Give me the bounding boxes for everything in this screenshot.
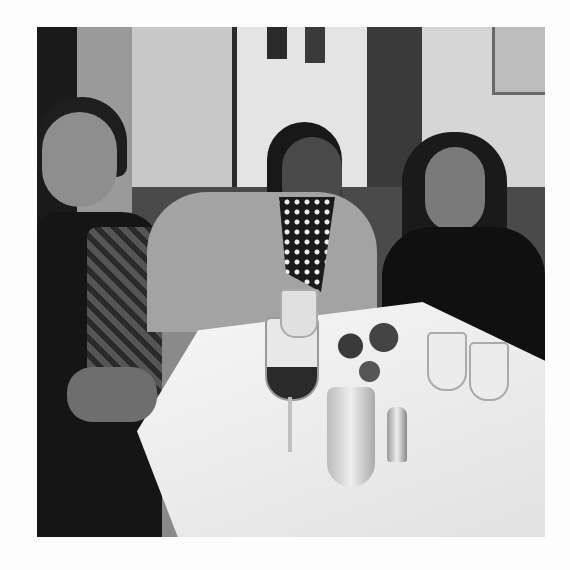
woman-center-body	[147, 192, 377, 332]
wine-glass-stem	[288, 397, 292, 452]
wall-ribbon	[267, 27, 287, 59]
woman-left-hands	[67, 367, 157, 422]
photo	[37, 27, 545, 537]
flower-sprigs	[322, 312, 417, 397]
salt-shaker	[387, 407, 407, 462]
woman-right-face	[425, 147, 485, 232]
woman-left-face	[42, 112, 117, 207]
wall-frame	[492, 27, 545, 95]
wall-ribbon	[305, 27, 325, 63]
wine-glass-right-1	[427, 332, 467, 391]
wine-glass-right-2	[469, 342, 509, 401]
bud-vase	[327, 387, 375, 487]
water-glass	[280, 289, 318, 338]
